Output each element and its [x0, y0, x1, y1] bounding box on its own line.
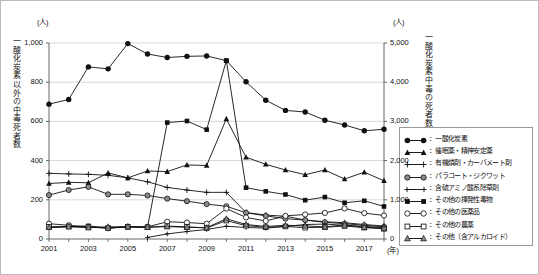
legend-marker-filled-triangle-icon	[404, 144, 428, 155]
legend-item: ：催眠薬・精神安定薬	[404, 143, 529, 155]
x-axis-tick: 2001	[31, 244, 67, 253]
y-axis-tick-left: 1,000	[7, 38, 43, 47]
legend-label: ：パラコート・ジクワット	[429, 169, 505, 180]
x-axis-tick: 2013	[267, 244, 303, 253]
legend-label: ：有機燐剤・カーバメート剤	[429, 156, 511, 167]
legend-item: ：一酸化炭素	[404, 131, 529, 143]
legend-label: ：その他の農薬	[429, 218, 473, 229]
legend-label: ：その他（含アルカロイド）	[429, 230, 511, 241]
chart-series	[46, 116, 387, 186]
legend-item: ：その他の農薬	[404, 217, 529, 229]
legend-item: ：含硫アミノ酸系除草剤	[404, 180, 529, 192]
x-axis-tick: 2017	[346, 244, 382, 253]
chart-series	[46, 41, 386, 134]
x-axis-tick: 2005	[110, 244, 146, 253]
legend-label: ：一酸化炭素	[429, 132, 467, 143]
legend-marker-filled-circle-icon	[404, 132, 428, 143]
chart-figure: (人) (人) 一酸化炭素以外の中毒死者数 一酸化炭素中毒の死者数 (年) ：一…	[0, 0, 539, 275]
y-axis-tick-left: 600	[7, 116, 43, 125]
y-axis-tick-right: 2,000	[390, 156, 428, 165]
chart-series	[46, 184, 386, 229]
y-axis-tick-left: 400	[7, 156, 43, 165]
legend-label: ：含硫アミノ酸系除草剤	[429, 181, 499, 192]
legend-label: ：その他の医薬品	[429, 205, 480, 216]
legend-item: ：その他の医薬品	[404, 205, 529, 217]
legend-item: ：パラコート・ジクワット	[404, 168, 529, 180]
chart-series	[47, 58, 387, 230]
y-axis-tick-right: 5,000	[390, 38, 428, 47]
y-axis-tick-left: 200	[7, 195, 43, 204]
legend-marker-shaded-circle-icon	[404, 169, 428, 180]
chart-legend: ：一酸化炭素：催眠薬・精神安定薬：有機燐剤・カーバメート剤：パラコート・ジクワッ…	[399, 127, 533, 246]
x-axis-tick: 2003	[70, 244, 106, 253]
x-axis-tick: 2011	[228, 244, 264, 253]
y-axis-tick-right: 4,000	[390, 77, 428, 86]
y-axis-tick-left: 800	[7, 77, 43, 86]
legend-marker-open-square-icon	[404, 218, 428, 229]
legend-label: ：その他の揮発性毒物	[429, 193, 492, 204]
x-axis-tick: 2007	[149, 244, 185, 253]
x-axis-tick: 2015	[307, 244, 343, 253]
legend-marker-line-only-icon	[404, 181, 428, 192]
y-axis-tick-right: 3,000	[390, 116, 428, 125]
legend-marker-open-circle-icon	[404, 205, 428, 216]
y-axis-tick-right: 1,000	[390, 195, 428, 204]
legend-label: ：催眠薬・精神安定薬	[429, 144, 492, 155]
y-axis-tick-left: 0	[7, 234, 43, 243]
y-axis-tick-right: 0	[390, 234, 428, 243]
x-axis-tick: 2009	[189, 244, 225, 253]
